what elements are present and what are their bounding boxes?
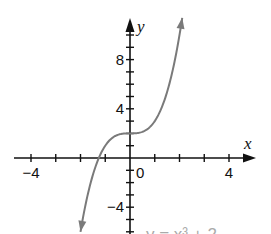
x-tick-label: 0 (136, 164, 144, 181)
plot-area: −40484−4 x y y = x³ + 2 (0, 0, 271, 234)
x-tick-label: −4 (22, 164, 39, 181)
x-axis-label: x (243, 134, 252, 153)
curve-bottom-arrow-icon (78, 220, 86, 232)
y-tick-label: 4 (116, 100, 124, 117)
axes (14, 18, 256, 234)
y-axis-label: y (135, 17, 145, 36)
curve-top-arrow-icon (177, 18, 185, 29)
equation-label: y = x³ + 2 (146, 225, 217, 234)
function-curve (81, 18, 183, 232)
curve-arrowheads (78, 18, 184, 232)
y-tick-label: 8 (116, 51, 124, 68)
y-axis-arrow-icon (126, 18, 135, 32)
x-tick-label: 4 (225, 164, 233, 181)
x-axis-arrow-icon (243, 154, 256, 163)
y-tick-label: −4 (107, 198, 124, 215)
cubic-function-graph: −40484−4 x y y = x³ + 2 (0, 0, 271, 234)
